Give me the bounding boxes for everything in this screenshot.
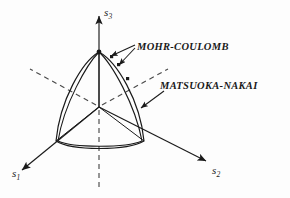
matsuoka-nakai-curve <box>56 52 144 149</box>
curve-marker-dot-3 <box>126 77 129 80</box>
spoke-to-right-vertex <box>99 107 144 141</box>
matsuoka-nakai-pointer-arrow <box>141 91 164 108</box>
mohr-coulomb-pointer-arrow-2 <box>119 48 135 65</box>
axis-s2-label: s2 <box>212 164 221 179</box>
pi-plane-yield-surface-figure: MOHR-COULOMB MATSUOKA-NAKAI s3 s1 s2 <box>0 0 290 198</box>
spoke-to-left-vertex <box>56 107 99 141</box>
dashed-upper-left-line <box>30 69 96 105</box>
axis-s2-label-subscript: 2 <box>217 170 221 179</box>
mohr-coulomb-curve <box>58 52 142 146</box>
curve-marker-dot-1 <box>110 55 113 58</box>
figure-canvas <box>0 0 290 198</box>
axis-s1-label: s1 <box>12 167 21 182</box>
axis-group <box>22 16 206 170</box>
center-spokes <box>56 53 144 141</box>
axis-s3-label-subscript: 3 <box>109 12 113 21</box>
axis-s1-label-subscript: 1 <box>17 173 21 182</box>
s2-axis-ray <box>99 107 206 161</box>
matsuoka-nakai-label: MATSUOKA-NAKAI <box>160 80 258 91</box>
top-vertex-dot <box>97 50 102 55</box>
curve-marker-dot-2 <box>117 63 120 66</box>
pointer-arrow-group <box>111 45 164 108</box>
mohr-coulomb-label: MOHR-COULOMB <box>137 41 229 52</box>
dashed-upper-right-line <box>102 69 168 105</box>
axis-s3-label: s3 <box>104 6 113 21</box>
mohr-coulomb-pointer-arrow-1 <box>111 45 135 56</box>
